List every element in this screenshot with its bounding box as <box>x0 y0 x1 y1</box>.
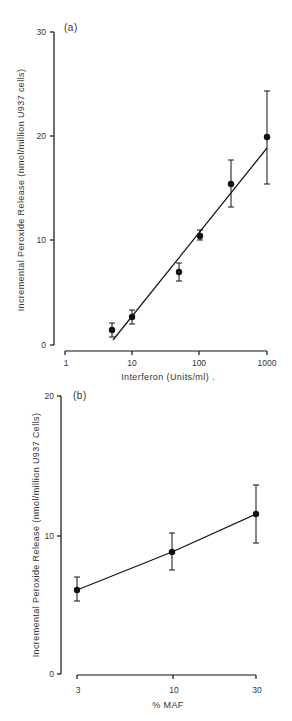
panel-a-y-tick: 10 <box>37 235 47 245</box>
panel-b-x-tick: 30 <box>252 685 262 695</box>
panel-b-y-tick: 20 <box>45 391 55 401</box>
data-point <box>109 327 115 333</box>
panel-b-error-bars <box>74 485 259 601</box>
panel-a-y-tick: 20 <box>37 131 47 141</box>
panel-b-series-line <box>77 514 256 590</box>
panel-a-x-tick: 10 <box>127 358 137 368</box>
panel-a-x-tick: 1 <box>64 358 69 368</box>
panel-a-x-axis-title: Interferon (Units/ml) . <box>121 372 215 382</box>
panel-a-y-tick: 30 <box>37 27 47 37</box>
panel-b <box>57 396 259 679</box>
panel-b-label: (b) <box>73 390 87 401</box>
data-point <box>176 269 182 275</box>
panel-a-fit-line <box>113 148 267 340</box>
data-point <box>74 587 80 593</box>
panel-b-y-tick: 0 <box>49 669 54 679</box>
panel-a-x-tick: 100 <box>192 358 206 368</box>
panel-a-y-tick: 0 <box>41 340 46 350</box>
panel-a-error-bars <box>109 91 270 337</box>
panel-b-y-tick: 10 <box>45 531 55 541</box>
panel-a-y-axis-title: Incremental Peroxide Release (nmol/milli… <box>16 69 26 312</box>
data-point <box>253 511 259 517</box>
panel-b-x-tick: 10 <box>169 685 179 695</box>
data-point <box>228 181 234 187</box>
data-point <box>169 549 175 555</box>
panel-a-x-tick: 1000 <box>258 358 277 368</box>
panel-a-data-points <box>109 134 270 333</box>
panel-b-x-axis-title: % MAF <box>152 700 184 710</box>
panel-a-label: (a) <box>64 22 78 33</box>
data-point <box>197 233 203 239</box>
panel-a <box>50 32 270 355</box>
data-point <box>264 134 270 140</box>
panel-b-x-tick: 3 <box>76 685 81 695</box>
data-point <box>129 314 135 320</box>
figure: (a) 30 20 10 0 1 10 100 1000 Interferon … <box>0 0 292 721</box>
panel-b-data-points <box>74 511 259 593</box>
panel-b-y-axis-title: Incremental Peroxide Release (nmol/milli… <box>31 413 41 658</box>
